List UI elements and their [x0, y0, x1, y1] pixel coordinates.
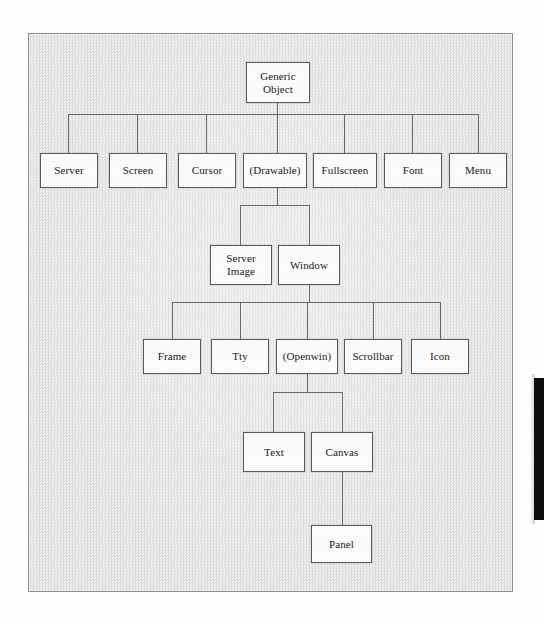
node-label-fullscreen: Fullscreen [320, 164, 371, 177]
edge-drop-scrollbar [373, 302, 374, 339]
node-label-scrollbar: Scrollbar [350, 350, 395, 363]
node-label-frame: Frame [156, 350, 189, 363]
edge-drop-icon [440, 302, 441, 339]
node-label-panel: Panel [327, 538, 356, 551]
edge-generic-object-stem [277, 103, 278, 114]
node-generic-object[interactable]: Generic Object [246, 62, 310, 103]
node-label-cursor: Cursor [190, 164, 225, 177]
edge-drawable-stem [277, 188, 278, 205]
edge-openwin-stem [307, 374, 308, 392]
node-icon[interactable]: Icon [411, 339, 469, 374]
node-tty[interactable]: Tty [211, 339, 269, 374]
edge-level4-bus [273, 392, 342, 393]
edge-drop-server-image [240, 205, 241, 245]
edge-drop-server [68, 114, 69, 153]
node-label-tty: Tty [230, 350, 250, 363]
edge-drop-screen [137, 114, 138, 153]
node-label-server-image: Server Image [224, 252, 257, 278]
node-label-menu: Menu [463, 164, 493, 177]
node-cursor[interactable]: Cursor [178, 153, 236, 188]
node-canvas[interactable]: Canvas [311, 432, 373, 472]
node-screen[interactable]: Screen [109, 153, 167, 188]
node-server-image[interactable]: Server Image [210, 245, 272, 285]
edge-drop-canvas [342, 392, 343, 432]
edge-level3-bus [172, 302, 440, 303]
node-openwin[interactable]: (Openwin) [276, 339, 338, 374]
edge-drop-font [412, 114, 413, 153]
edge-window-stem [309, 285, 310, 302]
node-label-drawable: (Drawable) [247, 164, 302, 177]
node-panel[interactable]: Panel [311, 525, 372, 563]
node-label-icon: Icon [428, 350, 452, 363]
node-font[interactable]: Font [384, 153, 442, 188]
node-label-server: Server [52, 164, 85, 177]
edge-level1-bus [68, 114, 478, 115]
node-label-screen: Screen [121, 164, 156, 177]
node-text[interactable]: Text [243, 432, 305, 472]
node-label-text: Text [262, 446, 286, 459]
node-label-canvas: Canvas [324, 446, 361, 459]
edge-canvas-to-panel [342, 472, 343, 525]
edge-drop-window [309, 205, 310, 245]
edge-drop-frame [172, 302, 173, 339]
edge-drop-drawable [277, 114, 278, 153]
edge-drop-tty [240, 302, 241, 339]
node-label-generic-object: Generic Object [258, 70, 298, 96]
node-window[interactable]: Window [278, 245, 340, 285]
edge-level2-bus [240, 205, 310, 206]
edge-drop-text [273, 392, 274, 432]
node-server[interactable]: Server [40, 153, 98, 188]
node-scrollbar[interactable]: Scrollbar [344, 339, 402, 374]
page-edge-black-bar [534, 378, 544, 520]
node-drawable[interactable]: (Drawable) [243, 153, 307, 188]
node-fullscreen[interactable]: Fullscreen [313, 153, 377, 188]
node-menu[interactable]: Menu [449, 153, 507, 188]
node-label-openwin: (Openwin) [281, 350, 334, 363]
edge-drop-cursor [206, 114, 207, 153]
page-canvas: Generic Object Server Screen Cursor (Dra… [0, 0, 544, 624]
node-label-font: Font [401, 164, 426, 177]
edge-drop-openwin [307, 302, 308, 339]
node-label-window: Window [288, 259, 330, 272]
node-frame[interactable]: Frame [143, 339, 201, 374]
edge-drop-menu [478, 114, 479, 153]
edge-drop-fullscreen [344, 114, 345, 153]
